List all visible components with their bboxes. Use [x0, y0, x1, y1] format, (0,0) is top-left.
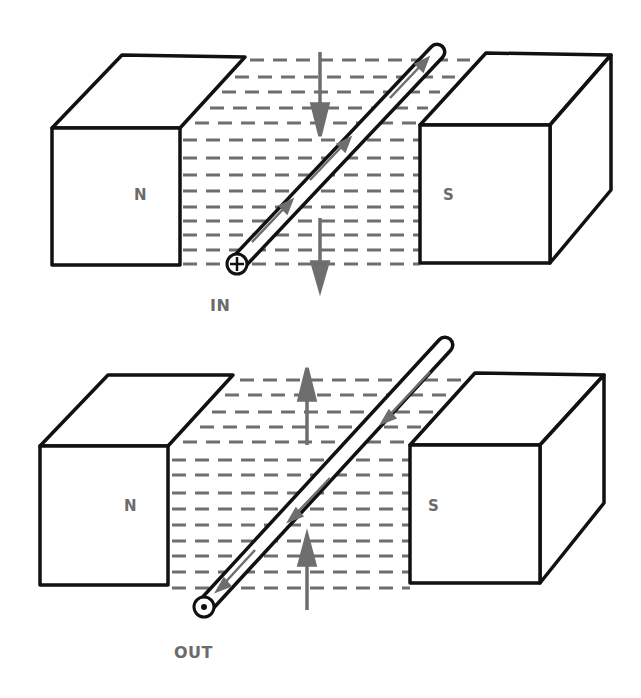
dot-in-circle-icon	[194, 597, 214, 617]
top-south-magnet	[420, 53, 611, 263]
magnetic-field-diagram	[0, 0, 641, 698]
in-label: IN	[210, 296, 230, 315]
top-wire-conductor	[227, 52, 437, 274]
top-wire-current-arrows	[252, 58, 428, 242]
out-label: OUT	[174, 643, 213, 662]
bottom-south-pole-label: S	[428, 497, 439, 515]
bottom-south-magnet	[410, 373, 604, 583]
cross-in-circle-icon	[227, 254, 247, 274]
top-panel	[52, 52, 611, 290]
top-south-pole-label: S	[443, 186, 454, 204]
bottom-panel	[40, 345, 604, 617]
bottom-north-pole-label: N	[124, 497, 137, 515]
bottom-north-magnet	[40, 375, 233, 585]
top-north-pole-label: N	[134, 186, 147, 204]
bottom-wire-conductor	[194, 345, 445, 617]
